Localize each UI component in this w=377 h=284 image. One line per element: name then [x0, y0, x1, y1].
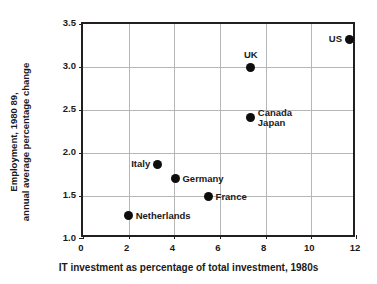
x-tick-mark: [311, 235, 312, 239]
data-point-marker[interactable]: [171, 174, 180, 183]
data-point-label: US: [329, 34, 342, 45]
gridline-horizontal: [83, 153, 353, 154]
x-tick-label: 6: [215, 242, 220, 253]
data-point-marker[interactable]: [153, 160, 162, 169]
y-tick-mark: [79, 67, 83, 68]
y-axis-title: Employment, 1980 89, annual average perc…: [0, 0, 40, 284]
y-tick-mark: [79, 153, 83, 154]
x-axis-tick-labels: 024681012: [81, 242, 355, 256]
data-point-label-text: US: [329, 34, 342, 45]
x-axis-title: IT investment as percentage of total inv…: [0, 262, 377, 273]
data-point-label: Germany: [182, 174, 223, 185]
y-tick-label: 3.5: [63, 17, 76, 28]
x-tick-mark: [129, 235, 130, 239]
scatter-plot-figure: Employment, 1980 89, annual average perc…: [0, 0, 377, 284]
x-tick-mark: [83, 235, 84, 239]
y-axis-tick-labels: 1.01.52.02.53.03.5: [48, 22, 76, 237]
gridline-horizontal: [83, 110, 353, 111]
y-tick-label: 1.0: [63, 232, 76, 243]
x-tick-label: 4: [170, 242, 175, 253]
x-tick-label: 10: [304, 242, 315, 253]
x-tick-mark: [356, 235, 357, 239]
data-point-label: UK: [244, 50, 258, 61]
data-point-marker[interactable]: [124, 211, 133, 220]
plot-area: USUKCanadaJapanItalyGermanyFranceNetherl…: [81, 22, 355, 237]
data-point-label-text: UK: [244, 50, 258, 61]
data-point-label: Italy: [131, 159, 150, 170]
y-axis-title-line2: annual average percentage change: [20, 63, 32, 221]
data-point-label-text: Netherlands: [136, 211, 191, 222]
x-tick-mark: [174, 235, 175, 239]
gridline-vertical: [266, 24, 267, 235]
data-point-label-text: Germany: [182, 174, 223, 185]
data-point-label-text: France: [216, 192, 247, 203]
y-axis-title-line1: Employment, 1980 89,: [8, 63, 20, 221]
data-point-marker[interactable]: [204, 192, 213, 201]
gridline-vertical: [311, 24, 312, 235]
gridline-vertical: [220, 24, 221, 235]
gridline-vertical: [174, 24, 175, 235]
x-tick-mark: [220, 235, 221, 239]
data-point-marker[interactable]: [345, 35, 354, 44]
x-tick-label: 12: [350, 242, 361, 253]
y-tick-label: 1.5: [63, 189, 76, 200]
data-point-label-text: Canada: [258, 107, 292, 118]
x-tick-label: 2: [124, 242, 129, 253]
data-point-label-text: Italy: [131, 159, 150, 170]
y-tick-mark: [79, 110, 83, 111]
data-point-marker[interactable]: [246, 63, 255, 72]
y-tick-label: 2.5: [63, 103, 76, 114]
data-point-label: CanadaJapan: [258, 107, 292, 128]
y-tick-label: 2.0: [63, 146, 76, 157]
y-tick-mark: [79, 24, 83, 25]
x-tick-mark: [266, 235, 267, 239]
data-point-label: France: [216, 192, 247, 203]
data-point-label: Netherlands: [136, 211, 191, 222]
data-point-marker[interactable]: [246, 113, 255, 122]
y-tick-mark: [79, 238, 83, 239]
gridline-horizontal: [83, 67, 353, 68]
y-tick-mark: [79, 196, 83, 197]
gridline-vertical: [129, 24, 130, 235]
y-tick-label: 3.0: [63, 60, 76, 71]
x-tick-label: 0: [78, 242, 83, 253]
data-point-label-text-secondary: Japan: [258, 118, 292, 129]
x-tick-label: 8: [261, 242, 266, 253]
